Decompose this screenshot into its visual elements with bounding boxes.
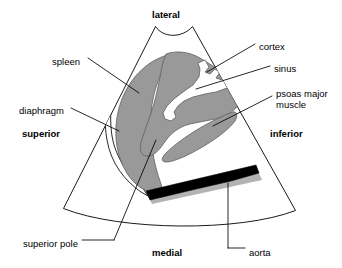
orientation-label-inferior-line-0: inferior	[270, 128, 303, 139]
structure-label-aorta: aorta	[249, 247, 271, 258]
structure-label-psoas-major-muscle: psoas majormuscle	[276, 88, 328, 110]
structure-label-sinus: sinus	[274, 63, 296, 74]
structure-label-sinus-line-0: sinus	[274, 63, 296, 74]
orientation-label-lateral-line-0: lateral	[152, 9, 180, 20]
structure-label-cortex: cortex	[259, 41, 285, 52]
orientation-label-inferior: inferior	[270, 128, 303, 139]
orientation-label-superior-line-0: superior	[22, 128, 60, 139]
structure-label-aorta-line-0: aorta	[249, 247, 271, 258]
structure-label-diaphragm-line-0: diaphragm	[19, 105, 64, 116]
structure-label-diaphragm: diaphragm	[19, 105, 64, 116]
orientation-label-medial: medial	[152, 247, 182, 258]
orientation-label-superior: superior	[22, 128, 60, 139]
structure-label-spleen: spleen	[52, 56, 80, 67]
structure-label-superior-pole: superior pole	[23, 238, 78, 249]
structure-label-psoas-major-muscle-line-0: psoas major	[276, 88, 328, 99]
structure-label-spleen-line-0: spleen	[52, 56, 80, 67]
leader-line-cortex	[207, 44, 255, 72]
structure-label-superior-pole-line-0: superior pole	[23, 238, 78, 249]
structure-label-psoas-major-muscle-line-1: muscle	[276, 99, 328, 110]
orientation-label-lateral: lateral	[152, 9, 180, 20]
orientation-label-medial-line-0: medial	[152, 247, 182, 258]
structure-label-cortex-line-0: cortex	[259, 41, 285, 52]
